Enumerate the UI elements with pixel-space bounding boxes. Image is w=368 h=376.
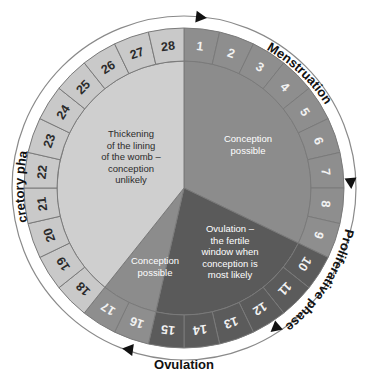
sector-label-ovulation-fertile-window: Ovulation –the fertilewindow whenconcept…	[200, 223, 258, 280]
day-number-15: 15	[160, 322, 175, 337]
menstrual-cycle-wheel: 1234567891011121314151617181920212223242…	[0, 0, 368, 376]
day-number-22: 22	[35, 164, 50, 179]
phase-label-ovulation: Ovulation	[154, 357, 214, 372]
phase-pie-layer	[57, 61, 311, 315]
sector-label-conception-possible-late: Conceptionpossible	[131, 255, 179, 278]
sector-label-conception-possible-early: Conceptionpossible	[224, 133, 272, 156]
day-number-28: 28	[160, 39, 175, 54]
day-number-21: 21	[35, 196, 50, 211]
day-number-14: 14	[192, 322, 207, 337]
